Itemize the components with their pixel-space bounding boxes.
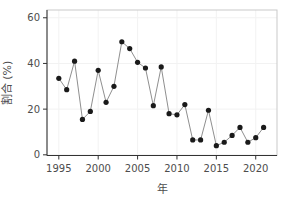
data-point	[88, 109, 93, 114]
data-point	[143, 65, 148, 70]
x-tick-label: 2020	[243, 163, 268, 174]
x-tick-label: 1995	[46, 163, 71, 174]
data-point	[96, 68, 101, 73]
data-point	[245, 140, 250, 145]
data-point	[206, 108, 211, 113]
data-point	[135, 60, 140, 65]
y-tick-label: 60	[27, 12, 40, 23]
data-point	[253, 135, 258, 140]
data-point	[111, 84, 116, 89]
data-point	[214, 143, 219, 148]
data-point	[230, 133, 235, 138]
data-point	[198, 137, 203, 142]
y-tick-label: 40	[27, 58, 40, 69]
data-point	[190, 137, 195, 142]
data-point	[56, 76, 61, 81]
chart-canvas: 0204060199520002005201020152020 年 割合 (%)	[0, 0, 284, 206]
data-point	[237, 125, 242, 130]
data-point	[80, 117, 85, 122]
data-point	[103, 100, 108, 105]
y-tick-label: 0	[34, 149, 40, 160]
axes: 0204060199520002005201020152020	[27, 10, 277, 174]
panel-border-rect	[47, 10, 277, 156]
x-tick-label: 2000	[85, 163, 110, 174]
x-tick-label: 2015	[204, 163, 229, 174]
x-tick-label: 2005	[125, 163, 150, 174]
data-point	[174, 112, 179, 117]
data-point	[151, 103, 156, 108]
series-line	[59, 42, 264, 146]
scatter-line-chart-figure: 0204060199520002005201020152020 年 割合 (%)	[0, 0, 284, 206]
data-point	[261, 125, 266, 130]
y-tick-label: 20	[27, 104, 40, 115]
grid-lines	[47, 10, 277, 156]
data-point	[182, 102, 187, 107]
data-series	[56, 39, 266, 148]
data-point	[64, 87, 69, 92]
data-point	[222, 140, 227, 145]
data-point	[127, 46, 132, 51]
x-axis-title: 年	[157, 182, 168, 196]
x-tick-label: 2010	[164, 163, 189, 174]
data-point	[166, 111, 171, 116]
panel-border	[47, 10, 277, 156]
data-point	[119, 39, 124, 44]
y-axis-title: 割合 (%)	[0, 61, 14, 106]
data-point	[72, 59, 77, 64]
data-point	[159, 64, 164, 69]
